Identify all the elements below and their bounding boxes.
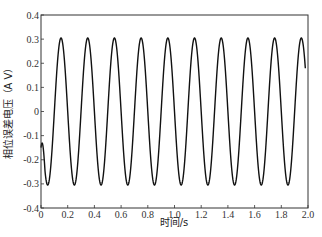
x-tick-label: 0.8 [142, 209, 155, 220]
y-axis-label: 相位误差电压（A V） [2, 63, 14, 160]
x-tick-label: 1.6 [248, 209, 261, 220]
x-tick-label: 1.8 [275, 209, 288, 220]
x-tick-label: 1.2 [195, 209, 208, 220]
y-tick-label: -0.1 [23, 130, 39, 141]
y-tick-label: 0 [34, 106, 39, 117]
y-tick-label: 0.3 [27, 34, 40, 45]
x-tick-label: 1.4 [222, 209, 235, 220]
y-tick-label: -0.2 [23, 154, 39, 165]
y-tick-label: 0.4 [27, 10, 40, 21]
y-tick-label: 0.1 [27, 82, 40, 93]
y-tick-label: -0.4 [23, 203, 39, 214]
x-tick-label: 0 [39, 209, 44, 220]
x-tick-label: 0.6 [115, 209, 128, 220]
x-tick-label: 2.0 [302, 209, 315, 220]
plot-area [41, 15, 308, 208]
y-tick-label: -0.3 [23, 178, 39, 189]
line-chart: 00.20.40.60.81.01.21.41.61.82.0 0.40.30.… [0, 0, 322, 237]
x-tick-label: 0.2 [61, 209, 74, 220]
x-tick-label: 0.4 [88, 209, 101, 220]
y-tick-label: 0.2 [27, 58, 40, 69]
phase-error-voltage-line [41, 38, 305, 185]
x-axis-label: 时间/s [160, 216, 189, 228]
